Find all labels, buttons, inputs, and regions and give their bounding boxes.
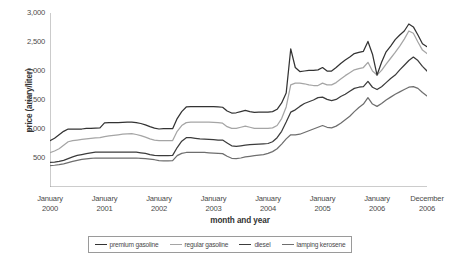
y-tick-label: 2,500 [5,37,45,46]
y-tick-label: 1,500 [5,95,45,104]
y-tick-label: 2,000 [5,66,45,75]
x-axis-tick-labels: January2000January2001January2002January… [0,190,431,216]
legend-label: lamping kerosene [297,241,346,248]
chart-legend: premium gasolineregular gasolinediesella… [88,236,352,253]
legend-label: diesel [254,241,270,248]
legend-item-diesel[interactable]: diesel [239,241,270,248]
legend-label: regular gasoline [185,241,229,248]
x-tick-label: January2000 [20,194,80,213]
legend-item-lamping-kerosene[interactable]: lamping kerosene [282,241,346,248]
x-tick-label: January2001 [75,194,135,213]
legend-label: premium gasoline [110,241,159,248]
legend-swatch-icon [239,244,251,245]
x-tick-label: December2006 [397,194,449,213]
plot-area [50,13,427,187]
legend-swatch-icon [170,244,182,245]
legend-item-premium-gasoline[interactable]: premium gasoline [95,241,159,248]
legend-item-regular-gasoline[interactable]: regular gasoline [170,241,229,248]
series-line-diesel [50,57,427,162]
axes [50,13,427,187]
legend-swatch-icon [95,244,107,245]
y-tick-label: 3,000 [5,8,45,17]
x-axis-title: month and year [50,216,430,225]
x-tick-label: January2003 [184,194,244,213]
series-canvas [50,13,427,187]
legend-swatch-icon [282,244,294,245]
y-tick-label: 500 [5,153,45,162]
series-line-lamping-kerosene [50,87,427,166]
series-line-premium-gasoline [50,24,427,141]
x-tick-label: January2004 [238,194,298,213]
y-axis-tick-labels: 5001,0001,5002,0002,5003,000 [0,0,45,200]
y-tick-label: 1,000 [5,124,45,133]
x-tick-label: January2002 [129,194,189,213]
x-tick-label: January2005 [293,194,353,213]
